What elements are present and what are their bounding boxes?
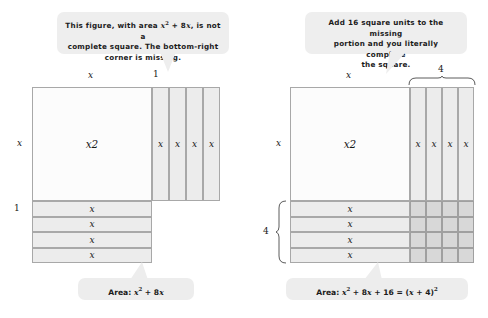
unit-square (458, 201, 474, 217)
right-horizontal-strip (290, 232, 410, 248)
figure-canvas: This figure, with area x2 + 8x, is not a… (0, 0, 488, 318)
right-top-brace (408, 76, 478, 86)
unit-square (410, 248, 426, 264)
right-horizontal-strip (290, 248, 410, 264)
left-horizontal-strip (32, 232, 152, 248)
right-side-brace (275, 200, 287, 264)
left-vertical-strip (169, 87, 186, 201)
left-side-label-one: 1 (14, 203, 20, 213)
left-callout-line2: complete square. The bottom-right (68, 42, 219, 51)
unit-square (410, 201, 426, 217)
right-x-squared-region (290, 87, 410, 201)
unit-square (410, 232, 426, 248)
right-vertical-strip (442, 87, 458, 201)
left-callout: This figure, with area x2 + 8x, is not a… (57, 12, 229, 54)
right-top-brace-label: 4 (438, 64, 444, 74)
unit-square (458, 217, 474, 233)
left-callout-line1: This figure, with area x2 + 8x, is not a (65, 21, 220, 41)
right-vertical-strip (458, 87, 474, 201)
right-horizontal-strip (290, 201, 410, 217)
completed-unit-grid (410, 201, 474, 263)
right-side-brace-label: 4 (263, 226, 269, 236)
left-horizontal-strip (32, 248, 152, 264)
right-top-label-x: x (346, 70, 351, 80)
left-horizontal-strip (32, 201, 152, 217)
unit-square (426, 248, 442, 264)
right-side-label-x: x (276, 138, 281, 148)
unit-square (442, 248, 458, 264)
unit-square (442, 232, 458, 248)
right-callout-tail (376, 52, 416, 76)
unit-square (410, 217, 426, 233)
left-side-label-x: x (17, 138, 22, 148)
unit-square (426, 232, 442, 248)
unit-square (442, 217, 458, 233)
right-callout-line1: Add 16 square units to the missing (329, 18, 444, 38)
unit-square (458, 232, 474, 248)
right-horizontal-strip (290, 217, 410, 233)
right-vertical-strip (410, 87, 426, 201)
unit-square (442, 201, 458, 217)
right-vertical-strip (426, 87, 442, 201)
unit-square (426, 217, 442, 233)
left-vertical-strip (152, 87, 169, 201)
left-top-label-x: x (88, 70, 93, 80)
right-callout: Add 16 square units to the missing porti… (305, 12, 467, 54)
unit-square (426, 201, 442, 217)
left-top-label-one: 1 (153, 69, 159, 79)
right-area-label: Area: x2 + 8x + 16 = (x + 4)2 (286, 278, 468, 300)
left-vertical-strip (186, 87, 203, 201)
left-x-squared-region (32, 87, 152, 201)
left-area-label: Area: x2 + 8x (78, 278, 194, 300)
unit-square (458, 248, 474, 264)
left-vertical-strip (203, 87, 220, 201)
left-horizontal-strip (32, 217, 152, 233)
